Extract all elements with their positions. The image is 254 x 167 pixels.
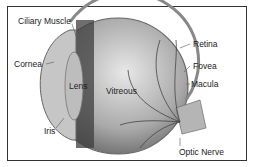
label-ciliary-muscle: Ciliary Muscle <box>18 17 71 26</box>
label-iris: Iris <box>44 127 55 136</box>
label-fovea: Fovea <box>193 62 217 71</box>
label-lens: Lens <box>69 82 87 91</box>
label-cornea: Cornea <box>14 60 42 69</box>
label-retina: Retina <box>193 40 218 49</box>
label-vitreous: Vitreous <box>106 87 137 96</box>
label-macula: Macula <box>191 80 218 89</box>
label-optic-nerve: Optic Nerve <box>179 148 224 157</box>
